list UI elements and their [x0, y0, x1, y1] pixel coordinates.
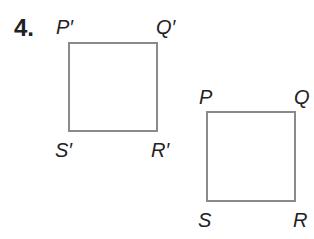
label-s: S — [198, 210, 211, 230]
label-p: P — [199, 87, 212, 107]
label-q: Q — [294, 87, 310, 107]
label-r-prime: R′ — [151, 140, 169, 160]
label-s-prime: S′ — [55, 140, 72, 160]
image-square — [68, 42, 158, 132]
problem-number: 4. — [14, 14, 34, 42]
label-q-prime: Q′ — [156, 17, 175, 37]
original-square — [206, 111, 296, 202]
label-p-prime: P′ — [56, 17, 73, 37]
label-r: R — [293, 210, 307, 230]
